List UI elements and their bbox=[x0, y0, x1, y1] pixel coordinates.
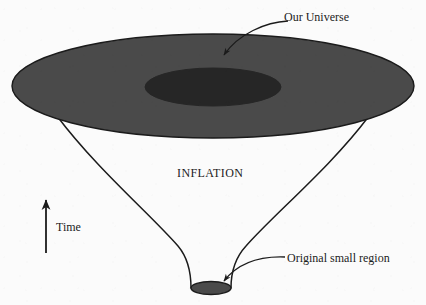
original-small-region-disk bbox=[191, 282, 231, 295]
time-axis-label: Time bbox=[56, 221, 81, 233]
our-universe-label: Our Universe bbox=[284, 11, 349, 23]
funnel-left-edge bbox=[57, 116, 191, 288]
inflation-label: INFLATION bbox=[177, 167, 243, 179]
inflation-diagram-figure: Our Universe INFLATION Time Original sma… bbox=[0, 0, 426, 305]
original-small-region-label: Original small region bbox=[287, 252, 390, 264]
observable-region-disk bbox=[145, 68, 281, 106]
